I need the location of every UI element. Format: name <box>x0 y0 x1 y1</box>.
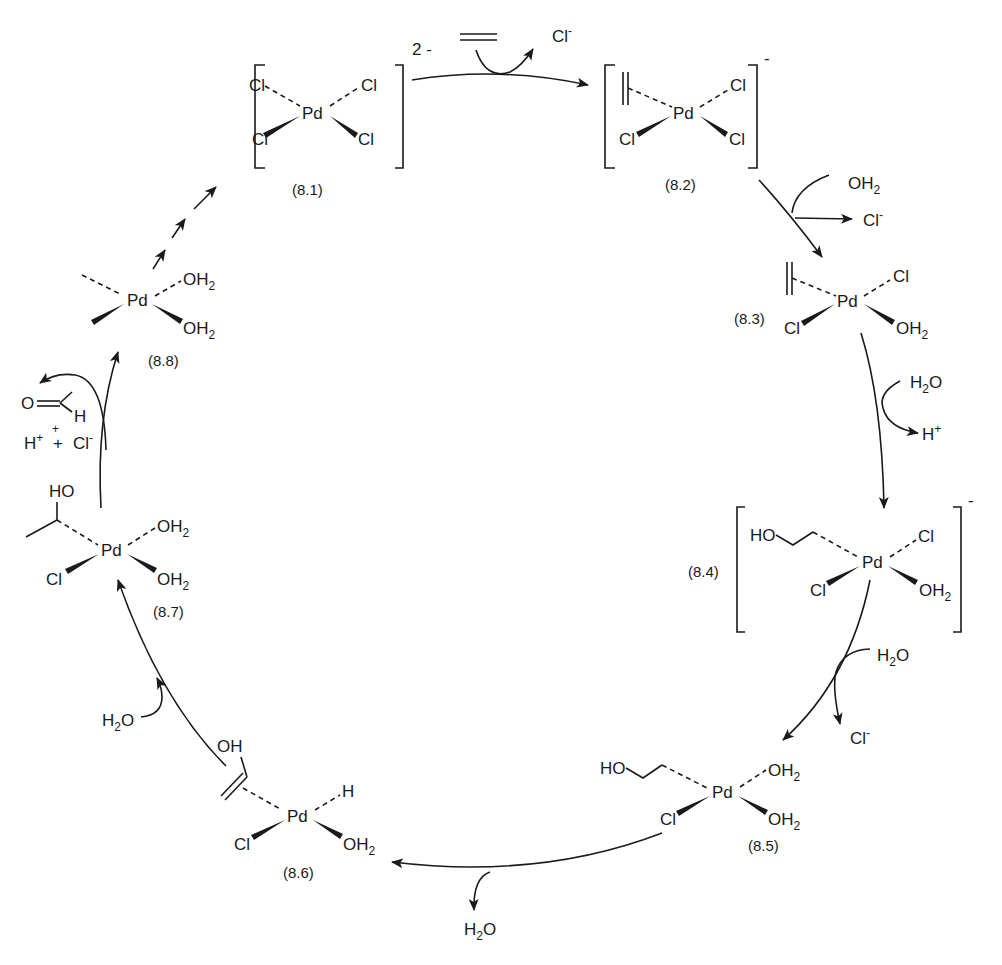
reagent-water: H2O <box>910 373 942 396</box>
wacker-cycle-diagram: Cl Cl Cl Cl Pd 2 - (8.1) Cl- - Pd Cl Cl … <box>0 0 1002 965</box>
byproduct-water: H2O <box>464 920 496 943</box>
right-bracket <box>395 65 403 168</box>
metal-pd: Pd <box>287 807 308 826</box>
species-8-6: OH Pd H Cl OH2 (8.6) <box>217 737 376 881</box>
step-8-1-to-8-2: Cl- <box>412 24 588 85</box>
ligand-water: OH2 <box>768 761 801 784</box>
species-label-8-2: (8.2) <box>665 176 696 193</box>
ligand-cl: Cl <box>619 130 635 149</box>
ligand-water: OH2 <box>157 517 190 540</box>
reagent-water: H2O <box>877 646 909 669</box>
species-8-4: - HO Pd Cl Cl OH2 (8.4) <box>688 491 974 632</box>
step-8-3-to-8-4: H2O H+ <box>861 333 942 508</box>
species-label-8-8: (8.8) <box>148 352 179 369</box>
ligand-cl: Cl <box>918 527 934 546</box>
species-label-8-1: (8.1) <box>292 181 323 198</box>
ligand-cl: Cl <box>784 319 800 338</box>
ligand-water: OH2 <box>183 270 216 293</box>
species-label-8-3: (8.3) <box>734 310 765 327</box>
ligand-water: OH2 <box>343 835 376 858</box>
byproduct-proton: H+ <box>24 431 43 453</box>
metal-pd: Pd <box>862 553 883 572</box>
ligand-water: OH2 <box>919 581 952 604</box>
byproduct-chloride: Cl- <box>552 24 572 46</box>
ligand-cl: Cl <box>810 581 826 600</box>
species-8-1: Cl Cl Cl Cl Pd 2 - (8.1) <box>249 40 432 198</box>
ligand-cl: Cl <box>893 267 909 286</box>
byproduct-chloride: Cl- <box>73 431 93 453</box>
step-8-5-to-8-6: H2O <box>392 833 662 943</box>
species-8-3: Pd Cl Cl OH2 (8.3) <box>734 262 929 342</box>
species-label-8-4: (8.4) <box>688 563 719 580</box>
step-8-8-to-8-1 <box>153 187 216 269</box>
ligand-cl: Cl <box>358 130 374 149</box>
acetaldehyde-h: H <box>74 407 86 426</box>
hydroxyethyl-ho: HO <box>750 526 776 545</box>
ligand-water: OH2 <box>183 319 216 342</box>
acetaldehyde-o: O <box>21 394 34 413</box>
ligand-cl: Cl <box>46 570 62 589</box>
plus-sign: + <box>53 434 63 453</box>
species-8-2: - Pd Cl Cl Cl (8.2) <box>605 49 770 193</box>
metal-pd: Pd <box>101 541 122 560</box>
hydroxyethyl-ho: HO <box>49 482 75 501</box>
right-bracket <box>748 65 757 168</box>
hydroxyethyl-ho: HO <box>600 759 626 778</box>
charge-label: 2 - <box>412 40 432 59</box>
species-label-8-5: (8.5) <box>748 837 779 854</box>
left-bracket <box>737 507 745 632</box>
ligand-cl: Cl <box>361 76 377 95</box>
metal-pd: Pd <box>712 783 733 802</box>
ligand-cl: Cl <box>234 835 250 854</box>
step-8-2-to-8-3: OH2 Cl- <box>759 174 883 257</box>
species-8-7: HO Pd OH2 Cl OH2 (8.7) <box>26 482 190 620</box>
species-8-8: Pd OH2 OH2 (8.8) <box>82 270 216 369</box>
species-8-5: HO Pd OH2 Cl OH2 (8.5) <box>600 759 801 854</box>
reagent-water: OH2 <box>848 174 881 197</box>
ligand-water: OH2 <box>896 319 929 342</box>
charge-label: - <box>968 491 974 510</box>
byproduct-chloride: Cl- <box>850 726 870 748</box>
charge-label: - <box>764 49 770 68</box>
ligand-cl: Cl <box>660 810 676 829</box>
ligand-water: OH2 <box>157 570 190 593</box>
byproduct-chloride: Cl- <box>863 208 883 230</box>
metal-pd: Pd <box>837 292 858 311</box>
metal-pd: Pd <box>673 104 694 123</box>
right-bracket <box>953 507 961 632</box>
ligand-cl: Cl <box>249 76 265 95</box>
ligand-cl: Cl <box>729 130 745 149</box>
reagent-water: H2O <box>102 711 134 734</box>
ligand-water: OH2 <box>768 810 801 833</box>
byproduct-proton: H+ <box>922 422 941 444</box>
metal-pd: Pd <box>302 104 323 123</box>
enol-oh: OH <box>217 737 243 756</box>
species-label-8-6: (8.6) <box>283 864 314 881</box>
step-8-4-to-8-5: H2O Cl- <box>783 580 909 748</box>
ligand-hydride: H <box>342 782 354 801</box>
left-bracket <box>605 65 615 168</box>
ligand-cl: Cl <box>730 76 746 95</box>
species-label-8-7: (8.7) <box>153 603 184 620</box>
metal-pd: Pd <box>127 291 148 310</box>
